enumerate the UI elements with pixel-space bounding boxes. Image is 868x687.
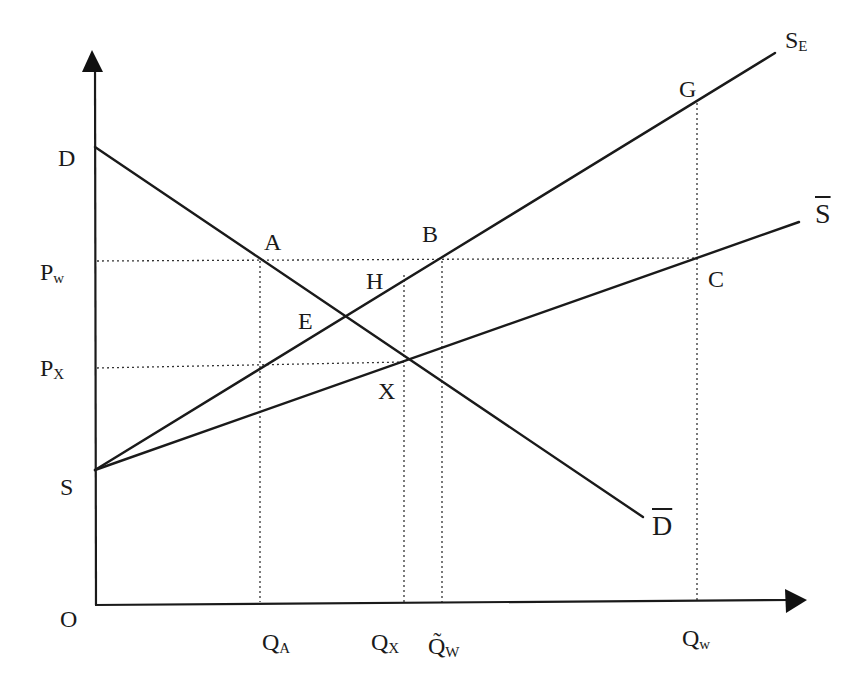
point-x: X <box>378 379 395 403</box>
px-guide-line <box>97 362 404 368</box>
label-supply-e-main: S <box>785 27 798 53</box>
point-h: H <box>366 269 383 293</box>
label-d-intercept: D <box>58 146 75 170</box>
point-b: B <box>422 222 438 246</box>
label-qx: QX <box>371 630 399 654</box>
label-demand-curve: D <box>652 512 672 540</box>
label-pw-main: P <box>40 259 53 285</box>
label-qw-sub: w <box>699 636 710 652</box>
label-qw: Qw <box>682 626 710 650</box>
label-supply-bar-curve: S <box>815 200 831 228</box>
label-qw-main: Q <box>682 625 699 651</box>
point-c: C <box>708 267 724 291</box>
label-supply-e-curve: SE <box>785 28 808 52</box>
y-axis-arrow-icon <box>82 50 103 72</box>
demand-curve <box>95 147 643 517</box>
label-qx-sub: X <box>388 640 399 656</box>
label-px: PX <box>40 356 64 380</box>
point-a: A <box>264 230 281 254</box>
supply-e-curve <box>95 53 775 470</box>
label-qw-tilde-main: Q̃ <box>428 633 445 659</box>
label-qw-tilde: Q̃W <box>428 634 460 658</box>
label-pw-sub: w <box>53 270 64 286</box>
x-axis-arrow-icon <box>785 589 807 613</box>
label-origin: O <box>60 607 77 631</box>
label-qa-sub: A <box>279 640 290 656</box>
label-s-intercept: S <box>60 475 73 499</box>
x-axis <box>95 600 790 605</box>
label-qx-main: Q <box>371 629 388 655</box>
diagram-canvas <box>0 0 868 687</box>
point-e: E <box>298 309 313 333</box>
point-g: G <box>679 77 696 101</box>
label-px-main: P <box>40 355 53 381</box>
label-qa-main: Q <box>262 629 279 655</box>
label-supply-e-sub: E <box>798 38 807 54</box>
label-qw-tilde-sub: W <box>445 644 459 660</box>
pw-guide-line <box>97 258 697 261</box>
label-qa: QA <box>262 630 290 654</box>
label-px-sub: X <box>53 366 64 382</box>
label-pw: Pw <box>40 260 64 284</box>
